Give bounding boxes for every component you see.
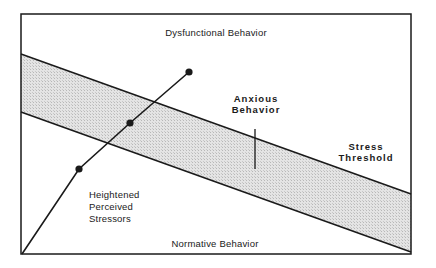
stressors-label-line-2: Perceived <box>89 201 140 213</box>
threshold-label-line-2: Threshold <box>339 152 394 163</box>
stress-threshold-label: Stress Threshold <box>339 141 394 164</box>
normative-behavior-label: Normative Behavior <box>171 238 258 249</box>
stress-threshold-diagram <box>0 0 436 268</box>
anxious-label-line-1: Anxious <box>232 93 281 104</box>
stressors-label-line-3: Stressors <box>89 213 140 225</box>
stressor-marker-dot <box>126 119 133 126</box>
stressors-label: Heightened Perceived Stressors <box>89 189 140 225</box>
bottom-region-text: Normative Behavior <box>171 238 258 249</box>
anxious-behavior-label: Anxious Behavior <box>232 93 281 116</box>
stressor-marker-dot <box>185 68 192 75</box>
stressor-marker-dot <box>75 165 82 172</box>
dysfunctional-behavior-label: Dysfunctional Behavior <box>165 27 267 38</box>
anxious-label-line-2: Behavior <box>232 104 281 115</box>
threshold-label-line-1: Stress <box>339 141 394 152</box>
stressors-label-line-1: Heightened <box>89 189 140 201</box>
top-region-text: Dysfunctional Behavior <box>165 27 267 38</box>
